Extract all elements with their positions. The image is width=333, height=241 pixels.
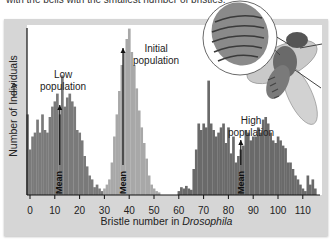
magnified-abdomen-icon [203, 0, 278, 75]
x-axis-label-plain: Bristle number in [101, 215, 183, 227]
high-label-line2: population [228, 127, 274, 139]
x-axis-label: Bristle number in Drosophila [0, 215, 333, 227]
x-tick-label: 80 [223, 205, 234, 216]
initial-label-line1: Initial [133, 43, 179, 55]
high-mean-label: Mean [236, 171, 246, 194]
y-axis-label: Number of Individuals [7, 51, 19, 161]
initial-label-line2: population [133, 55, 179, 67]
x-tick-label: 100 [270, 205, 287, 216]
low-label-line1: Low [40, 69, 86, 81]
high-label-line1: High [228, 115, 274, 127]
low-mean-label: Mean [54, 171, 64, 194]
x-tick-label: 40 [124, 205, 135, 216]
x-tick-label: 50 [148, 205, 159, 216]
initial-population-label: Initial population [133, 43, 179, 67]
x-tick-label: 90 [248, 205, 259, 216]
x-tick-label: 0 [27, 205, 33, 216]
x-tick-label: 30 [99, 205, 110, 216]
x-axis-label-italic: Drosophila [182, 215, 232, 227]
x-tick-label: 70 [198, 205, 209, 216]
x-tick-label: 20 [74, 205, 85, 216]
initial-mean-label: Mean [118, 171, 128, 194]
low-label-line2: population [40, 81, 86, 93]
low-population-label: Low population [40, 69, 86, 93]
high-population-label: High population [228, 115, 274, 139]
x-tick-label: 110 [295, 205, 311, 216]
x-tick-label: 10 [49, 205, 60, 216]
x-tick-label: 60 [173, 205, 184, 216]
